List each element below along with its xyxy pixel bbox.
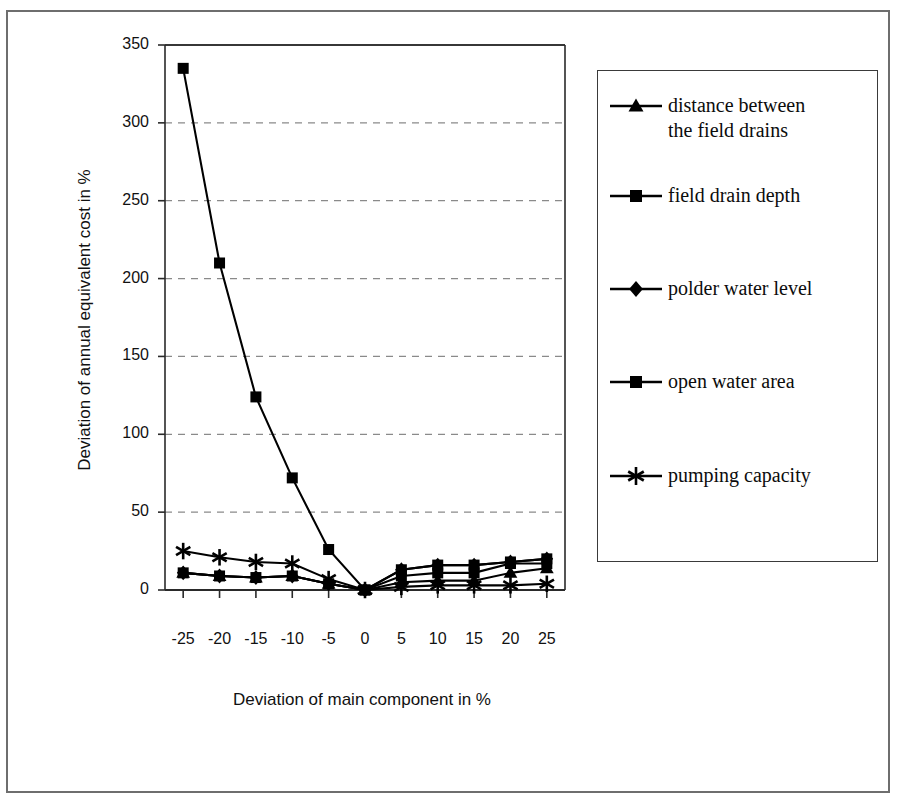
legend-label-line1: field drain depth xyxy=(668,183,800,208)
x-axis-title: Deviation of main component in % xyxy=(152,690,572,710)
legend-entry-3[interactable]: open water area xyxy=(608,369,870,394)
y-tick-label: 350 xyxy=(103,35,149,53)
legend-label: pumping capacity xyxy=(666,463,811,488)
legend-label-line1: polder water level xyxy=(668,276,812,301)
y-tick-label: 200 xyxy=(103,269,149,287)
chart-legend: distance betweenthe field drainsfield dr… xyxy=(597,70,878,562)
legend-label-line1: pumping capacity xyxy=(668,463,811,488)
asterisk-icon xyxy=(608,465,666,487)
legend-label: field drain depth xyxy=(666,183,800,208)
legend-label: open water area xyxy=(666,369,795,394)
legend-label: polder water level xyxy=(666,276,812,301)
y-axis-title: Deviation of annual equivalent cost in % xyxy=(75,60,95,580)
legend-entry-0[interactable]: distance betweenthe field drains xyxy=(608,93,870,143)
y-tick-label: 250 xyxy=(103,191,149,209)
series-1 xyxy=(178,63,553,596)
gridlines-group xyxy=(165,45,565,512)
y-axis-ticks xyxy=(158,45,165,590)
y-tick-label: 300 xyxy=(103,113,149,131)
legend-label: distance betweenthe field drains xyxy=(666,93,805,143)
square-icon xyxy=(608,185,666,207)
y-tick-label: 0 xyxy=(103,580,149,598)
chart-figure: 050100150200250300350 -25-20-15-10-50510… xyxy=(0,0,905,806)
legend-label-line2: the field drains xyxy=(668,118,805,143)
legend-entry-1[interactable]: field drain depth xyxy=(608,183,870,208)
y-tick-label: 50 xyxy=(103,502,149,520)
diamond-icon xyxy=(608,278,666,300)
x-tick-label: 25 xyxy=(523,630,571,648)
y-tick-label: 150 xyxy=(103,346,149,364)
square-icon xyxy=(608,371,666,393)
legend-label-line1: distance between xyxy=(668,93,805,118)
legend-entry-2[interactable]: polder water level xyxy=(608,276,870,301)
data-series-group xyxy=(176,63,554,598)
legend-entry-4[interactable]: pumping capacity xyxy=(608,463,870,488)
triangle-icon xyxy=(608,95,666,117)
plot-frame xyxy=(165,45,565,590)
legend-label-line1: open water area xyxy=(668,369,795,394)
y-tick-label: 100 xyxy=(103,424,149,442)
